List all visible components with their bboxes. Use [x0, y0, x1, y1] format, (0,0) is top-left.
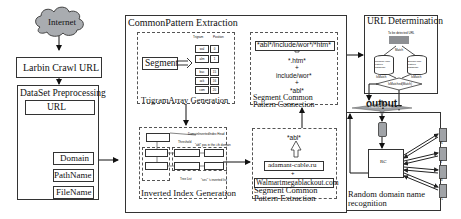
connection-part: *.htm*: [288, 57, 306, 64]
url-determination-title: URL Determination: [367, 16, 443, 26]
larbin-crawl-label: Larbin Crawl URL: [23, 62, 99, 73]
connection-caption-2: Pattern Connection: [253, 101, 315, 109]
trigram-cell: com: [195, 86, 209, 94]
connection-result-text: *abl*/include/wor*/*htm*: [257, 41, 331, 48]
input-url-label: To be detected URL: [388, 31, 415, 35]
server-label-b: B: [440, 177, 443, 182]
server-label-r: R: [440, 140, 443, 145]
common-pattern-title: CommonPattern Extraction: [128, 17, 238, 28]
trigram-cell: ack: [195, 77, 209, 85]
connection-part: include/wor*: [276, 72, 311, 79]
match-label: Match: [395, 48, 403, 52]
inverted-list-label: "ses" 's inverted list: [201, 178, 227, 182]
segment-label: Segment: [145, 58, 178, 68]
trigram-cell: alm: [195, 55, 209, 63]
position-cell: 0: [210, 45, 219, 53]
trigram-caption: TrigramArray Generation: [141, 95, 228, 105]
tree-node: [145, 162, 168, 170]
server-label-a: A: [440, 196, 443, 201]
inverted-caption: Inverted Index Generation: [141, 188, 236, 198]
extraction-plus: +: [291, 170, 295, 176]
benign-db-label: Benign URL pattern database: [408, 60, 424, 69]
inverted-list-node: [204, 149, 224, 157]
position-cell: 16: [210, 77, 219, 85]
position-col-header: Position: [213, 35, 224, 39]
threshold-label: Threshold: [178, 140, 191, 144]
inverted-list-node: [174, 162, 200, 170]
feature-extraction-label: Feature Extraction: [369, 105, 391, 109]
tree-node: [145, 149, 168, 157]
input-url-block: [389, 36, 409, 44]
recognition-title-2: recognition: [348, 199, 387, 208]
random-db-label: Random URL pattern database: [375, 60, 391, 69]
position-cell: 20: [210, 86, 219, 94]
position-cell: 15: [210, 68, 219, 76]
dataset-title: DataSet Preprocessing: [20, 88, 106, 98]
inverted-list-node: [174, 149, 200, 157]
position-cell: 1: [210, 55, 219, 63]
index-head-label: DomainInvertedIndex Head: [188, 132, 225, 136]
filename-label: FileName: [56, 187, 92, 197]
pos-label: "abl" pos in the i-th domain: [195, 143, 231, 147]
server-label-t: T: [440, 159, 442, 164]
extraction-pattern: *abl*: [287, 134, 301, 141]
pathname-label: PathName: [54, 170, 92, 180]
trigram-col-header: Trigram: [193, 35, 203, 39]
domain-text-1: adamant-cable.ru: [268, 161, 316, 169]
left-match-flag: IsMatch: [376, 75, 387, 79]
connection-plus: +: [295, 79, 299, 86]
tree-list-label: Tree List: [180, 177, 192, 181]
domain-label: Domain: [60, 153, 89, 163]
trigram-cell: wal: [195, 45, 209, 53]
connection-plus: +: [295, 64, 299, 71]
decision-label: IsMatched(Match): [388, 82, 412, 86]
rc-label: RC: [380, 159, 387, 164]
extraction-caption-2: Pattern Extraction: [254, 194, 316, 202]
url-label: URL: [47, 102, 66, 112]
trigram-cell: bac: [195, 68, 209, 76]
classifier-icon: [378, 122, 387, 137]
internet-label: Internet: [48, 17, 76, 27]
right-match-flag: IsMatch: [411, 75, 422, 79]
inverted-list-node: [204, 162, 224, 170]
index-head-node: [146, 133, 170, 142]
